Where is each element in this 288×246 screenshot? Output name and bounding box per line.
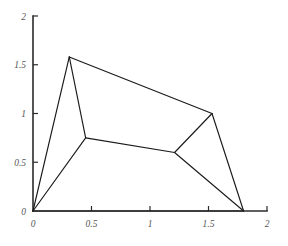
y-tick-label: 0.5 xyxy=(14,158,26,168)
mesh-edge xyxy=(69,57,212,114)
mesh-edge xyxy=(86,138,175,153)
mesh-edge xyxy=(33,138,86,211)
x-axis-tick-labels: 00.511.52 xyxy=(31,219,270,229)
figure-container: 00.511.52 00.511.52 xyxy=(0,0,288,246)
x-tick-label: 2 xyxy=(265,219,270,229)
y-tick-label: 2 xyxy=(21,12,26,22)
x-tick-label: 0 xyxy=(31,219,36,229)
polygon-mesh xyxy=(33,57,244,211)
x-tick-label: 0.5 xyxy=(86,219,98,229)
mesh-edge xyxy=(33,57,69,211)
axes: 00.511.52 00.511.52 xyxy=(14,12,270,230)
y-tick-label: 1.5 xyxy=(14,60,26,70)
mesh-edge xyxy=(175,153,244,212)
y-axis-tick-labels: 00.511.52 xyxy=(14,12,26,217)
x-tick-label: 1 xyxy=(148,219,153,229)
mesh-edge xyxy=(212,114,244,212)
mesh-edge xyxy=(175,114,212,153)
y-tick-label: 1 xyxy=(21,109,26,119)
y-tick-label: 0 xyxy=(21,207,26,217)
mesh-edge xyxy=(69,57,85,138)
plot-canvas: 00.511.52 00.511.52 xyxy=(0,0,288,246)
x-tick-label: 1.5 xyxy=(203,219,215,229)
